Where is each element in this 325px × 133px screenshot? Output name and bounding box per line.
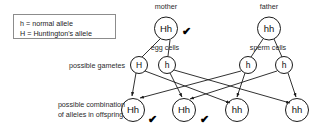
gamete-allele-sperm-2: h (282, 61, 287, 70)
row-label-offspring-line1: possible combination (58, 100, 125, 109)
cross-spermh2-to-offspring4 (288, 73, 296, 97)
gamete-allele-egg-1: H (136, 61, 142, 70)
mother-affected-checkmark-icon: ✔ (182, 26, 191, 37)
row-label-offspring: possible combination of alleles in offsp… (58, 100, 125, 119)
offspring-affected-checkmark-icon-1: ✔ (148, 114, 157, 125)
mother-genotype: Hh (160, 24, 172, 34)
offspring-genotype-1: Hh (127, 105, 139, 115)
row-label-gametes: possible gametes (69, 61, 125, 71)
offspring-affected-checkmark-icon-2: ✔ (200, 114, 209, 125)
father-genotype: hh (264, 24, 275, 34)
offspring-genotype-2: Hh (178, 105, 190, 115)
cross-eggh-to-offspring4 (174, 70, 290, 103)
row-label-offspring-line2: of alleles in offspring (58, 110, 125, 120)
cross-eggH-to-offspring3 (145, 71, 230, 103)
cross-spermh1-to-offspring3 (237, 73, 245, 97)
offspring-genotype-3: hh (232, 105, 243, 115)
sperm-cells-label: sperm cells (250, 44, 286, 51)
egg-cells-label: egg cells (151, 44, 179, 51)
allele-key-line-huntingtons: H = Huntington's allele (20, 29, 115, 39)
gamete-allele-sperm-1: h (246, 61, 251, 70)
allele-key-box: h = normal allele H = Huntington's allel… (13, 14, 116, 39)
cross-spermh2-to-offspring2 (190, 71, 277, 99)
father-title: father (260, 3, 278, 10)
gamete-allele-egg-2: h (165, 61, 170, 70)
mother-title: mother (155, 3, 177, 10)
genetics-inheritance-diagram: h = normal allele H = Huntington's allel… (0, 0, 325, 133)
allele-key-line-normal: h = normal allele (20, 19, 115, 29)
cross-eggH-to-offspring1 (132, 73, 136, 96)
cross-eggh-to-offspring2 (170, 73, 182, 97)
offspring-genotype-4: hh (292, 105, 303, 115)
